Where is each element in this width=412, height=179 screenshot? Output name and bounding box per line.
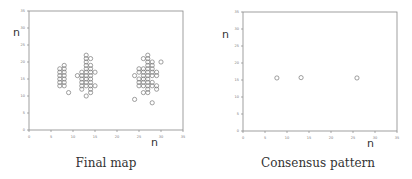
scatter-panel-1: 0510152025303505101520253035nn xyxy=(13,9,185,149)
y-tick-label: 0 xyxy=(237,129,239,133)
data-point-marker xyxy=(93,84,97,88)
x-tick-label: 35 xyxy=(181,135,185,139)
data-point-marker xyxy=(141,91,145,95)
data-point-marker xyxy=(141,57,145,61)
x-tick-label: 0 xyxy=(242,136,244,140)
y-tick-label: 20 xyxy=(235,61,239,65)
x-tick-label: 35 xyxy=(395,136,399,140)
x-tick-label: 20 xyxy=(115,135,119,139)
y-tick-label: 35 xyxy=(235,10,239,14)
x-tick-label: 25 xyxy=(137,135,141,139)
y-axis-label: n xyxy=(222,28,229,41)
x-tick-label: 25 xyxy=(351,136,355,140)
data-point-marker xyxy=(355,76,359,80)
y-tick-label: 5 xyxy=(237,112,239,116)
y-axis-label: n xyxy=(13,26,20,39)
x-tick-label: 10 xyxy=(71,135,75,139)
data-point-marker xyxy=(133,97,137,101)
data-point-marker xyxy=(84,94,88,98)
x-tick-label: 5 xyxy=(264,136,266,140)
x-tick-label: 10 xyxy=(285,136,289,140)
y-tick-label: 20 xyxy=(21,60,25,64)
data-point-marker xyxy=(299,76,303,80)
x-tick-label: 15 xyxy=(93,135,97,139)
plot-frame xyxy=(29,11,183,130)
data-point-marker xyxy=(275,76,279,80)
y-tick-label: 15 xyxy=(21,77,25,81)
data-point-marker xyxy=(89,57,93,61)
data-point-marker xyxy=(67,91,71,95)
y-tick-label: 25 xyxy=(21,43,25,47)
x-tick-label: 5 xyxy=(50,135,52,139)
data-point-marker xyxy=(159,60,163,64)
data-point-marker xyxy=(75,74,79,78)
y-tick-label: 0 xyxy=(23,128,25,132)
x-axis-label: n xyxy=(367,137,374,150)
data-point-marker xyxy=(93,70,97,74)
x-tick-label: 15 xyxy=(307,136,311,140)
y-tick-label: 5 xyxy=(23,111,25,115)
data-point-marker xyxy=(133,74,137,78)
y-tick-label: 25 xyxy=(235,44,239,48)
y-tick-label: 15 xyxy=(235,78,239,82)
x-tick-label: 0 xyxy=(28,135,30,139)
caption-final-map: Final map xyxy=(76,156,137,170)
y-tick-label: 10 xyxy=(235,95,239,99)
figure-canvas: 0510152025303505101520253035nn0510152025… xyxy=(0,0,412,179)
plot-frame xyxy=(243,12,397,131)
y-tick-label: 30 xyxy=(21,26,25,30)
y-tick-label: 30 xyxy=(235,27,239,31)
x-tick-label: 30 xyxy=(159,135,163,139)
x-axis-label: n xyxy=(151,136,158,149)
x-tick-label: 20 xyxy=(329,136,333,140)
y-tick-label: 35 xyxy=(21,9,25,13)
y-tick-label: 10 xyxy=(21,94,25,98)
scatter-panel-2: 0510152025303505101520253035nn xyxy=(222,10,399,150)
caption-consensus-pattern: Consensus pattern xyxy=(261,156,375,170)
data-point-marker xyxy=(150,101,154,105)
